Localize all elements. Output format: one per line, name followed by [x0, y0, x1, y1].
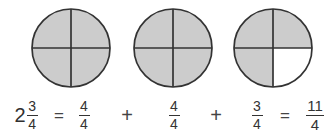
result-fraction: 11 4: [300, 96, 330, 134]
term-1: 4 4: [70, 96, 98, 134]
term-2-numerator: 4: [169, 99, 179, 115]
plus-sign-1: +: [115, 96, 139, 134]
plus-sign-2-label: +: [210, 105, 222, 125]
term-2-fraction: 4 4: [169, 99, 180, 131]
equals-sign-1-label: =: [54, 107, 64, 124]
equals-sign-2-label: =: [280, 107, 290, 124]
equals-sign-1: =: [48, 96, 70, 134]
term-1-denominator: 4: [79, 116, 89, 132]
result-fraction-stack: 11 4: [306, 98, 324, 133]
result-numerator: 11: [306, 98, 324, 115]
fraction-figure: 2 3 4 = 4 4 + 4 4: [0, 0, 332, 134]
plus-sign-2: +: [204, 96, 228, 134]
term-3-denominator: 4: [252, 116, 262, 132]
term-2: 4 4: [160, 96, 188, 134]
term-1-fraction: 4 4: [79, 99, 90, 131]
term-3-fraction: 3 4: [252, 99, 263, 131]
plus-sign-1-label: +: [121, 105, 133, 125]
fraction-circle-3: [232, 7, 314, 89]
term-3-numerator: 3: [252, 99, 262, 115]
mixed-number-whole: 2: [14, 105, 26, 125]
mixed-number-numerator: 3: [27, 99, 37, 115]
fraction-circles-row: [0, 0, 332, 96]
term-2-denominator: 4: [169, 116, 179, 132]
equals-sign-2: =: [274, 96, 296, 134]
term-3: 3 4: [243, 96, 271, 134]
term-1-numerator: 4: [79, 99, 89, 115]
mixed-number-denominator: 4: [27, 116, 37, 132]
fraction-circle-2: [132, 7, 214, 89]
result-denominator: 4: [310, 116, 320, 133]
equation-row: 2 3 4 = 4 4 + 4 4: [0, 96, 332, 134]
fraction-circle-1: [30, 7, 112, 89]
mixed-number-fraction: 3 4: [27, 99, 38, 131]
mixed-number: 2 3 4: [4, 96, 48, 134]
